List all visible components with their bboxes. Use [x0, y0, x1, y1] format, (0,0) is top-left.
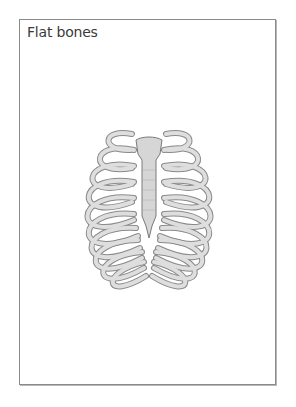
flat-bones-card: Flat bones: [19, 19, 276, 385]
ribcage-illustration: [72, 106, 226, 306]
card-title: Flat bones: [27, 24, 98, 40]
